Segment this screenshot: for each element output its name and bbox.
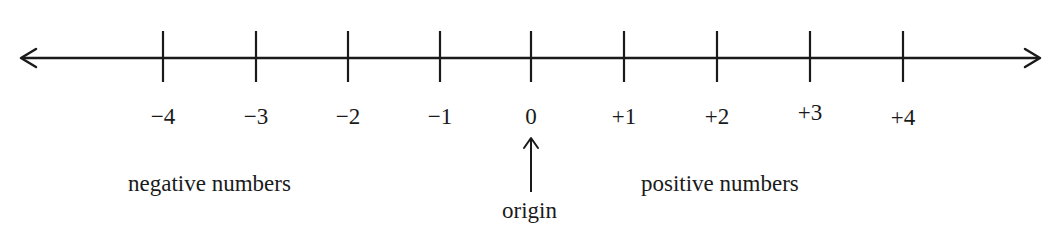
tick-label: +3 [798,101,822,124]
tick-label: +4 [891,106,915,129]
tick-label: +1 [612,105,636,128]
origin-caption: origin [502,199,557,222]
tick-label: 0 [525,105,537,128]
negative-numbers-caption: negative numbers [128,172,291,195]
tick-label: +2 [705,105,729,128]
tick-label: −2 [336,105,360,128]
tick-label: −3 [244,105,268,128]
tick-label: −1 [428,105,452,128]
tick-label: −4 [151,105,175,128]
tick-marks [163,31,903,82]
positive-numbers-caption: positive numbers [641,172,799,195]
